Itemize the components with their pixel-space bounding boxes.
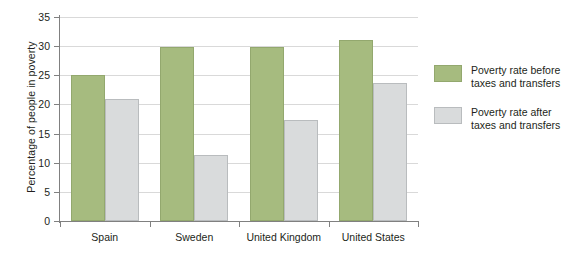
y-tick-mark: [54, 134, 59, 135]
legend-label: Poverty rate after taxes and transfers: [471, 106, 560, 132]
legend-item: Poverty rate before taxes and transfers: [434, 64, 560, 90]
bar: [71, 75, 105, 221]
y-tick-mark: [54, 46, 59, 47]
bar: [339, 40, 373, 221]
y-tick-mark: [54, 163, 59, 164]
y-tick-mark: [54, 75, 59, 76]
y-tick-mark: [54, 17, 59, 18]
y-tick-label: 30: [20, 41, 50, 52]
legend-item: Poverty rate after taxes and transfers: [434, 106, 560, 132]
legend-swatch-icon: [434, 65, 462, 82]
bar: [194, 155, 228, 221]
gridline: [60, 17, 418, 18]
x-axis-label: Spain: [91, 231, 118, 243]
bar: [373, 83, 407, 221]
x-tick-mark: [60, 222, 61, 227]
x-axis-label: United States: [342, 231, 405, 243]
plot-area: [60, 17, 418, 221]
y-tick-label: 5: [20, 187, 50, 198]
poverty-rate-bar-chart: Percentage of people in poverty 05101520…: [0, 0, 586, 254]
y-tick-label: 35: [20, 12, 50, 23]
x-tick-mark: [150, 222, 151, 227]
x-tick-mark: [329, 222, 330, 227]
bar: [284, 120, 318, 221]
y-tick-mark: [54, 221, 59, 222]
legend-label: Poverty rate before taxes and transfers: [471, 64, 560, 90]
bar: [250, 47, 284, 221]
y-tick-mark: [54, 192, 59, 193]
chart-legend: Poverty rate before taxes and transfersP…: [434, 64, 560, 148]
y-tick-label: 20: [20, 99, 50, 110]
x-axis-label: Sweden: [175, 231, 213, 243]
x-tick-mark: [239, 222, 240, 227]
y-tick-label: 15: [20, 129, 50, 140]
legend-swatch-icon: [434, 107, 462, 124]
y-tick-mark: [54, 104, 59, 105]
bar: [105, 99, 139, 221]
y-tick-label: 0: [20, 216, 50, 227]
y-tick-label: 25: [20, 70, 50, 81]
y-tick-label: 10: [20, 158, 50, 169]
x-axis-label: United Kingdom: [246, 231, 321, 243]
bar: [160, 47, 194, 221]
x-tick-mark: [418, 222, 419, 227]
